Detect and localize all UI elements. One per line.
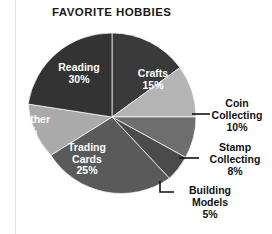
- callout-label-stamp-collecting-percent: 8%: [200, 166, 270, 178]
- callout-label-building-models-name2: Models: [168, 197, 252, 209]
- slice-label-other-percent: 7%: [22, 126, 70, 138]
- slice-label-trading-cards-name: Trading: [68, 141, 106, 153]
- callout-label-building-models: Building Models 5%: [168, 185, 252, 220]
- slice-label-reading-percent: 30%: [48, 74, 110, 86]
- slice-label-reading: Reading 30%: [48, 62, 110, 85]
- callout-label-coin-collecting-name: Coin: [225, 97, 248, 109]
- callout-label-stamp-collecting-name: Stamp: [219, 141, 251, 153]
- chart-page: FAVORITE HOBBIES Reading 30% Crafts 15% …: [0, 0, 272, 234]
- slice-label-trading-cards-percent: 25%: [56, 165, 118, 177]
- slice-label-crafts-percent: 15%: [126, 80, 180, 92]
- callout-label-coin-collecting: Coin Collecting 10%: [204, 98, 270, 133]
- callout-label-coin-collecting-percent: 10%: [204, 122, 270, 134]
- callout-label-building-models-name: Building: [189, 184, 231, 196]
- slice-label-trading-cards: Trading Cards 25%: [56, 142, 118, 177]
- callout-label-coin-collecting-name2: Collecting: [204, 110, 270, 122]
- slice-label-other: Other 7%: [22, 114, 70, 137]
- callout-label-stamp-collecting: Stamp Collecting 8%: [200, 142, 270, 177]
- slice-label-reading-name: Reading: [58, 61, 99, 73]
- callout-label-stamp-collecting-name2: Collecting: [200, 154, 270, 166]
- slice-label-other-name: Other: [22, 113, 50, 125]
- slice-label-crafts: Crafts 15%: [126, 68, 180, 91]
- slice-label-crafts-name: Crafts: [138, 67, 168, 79]
- callout-label-building-models-percent: 5%: [168, 209, 252, 221]
